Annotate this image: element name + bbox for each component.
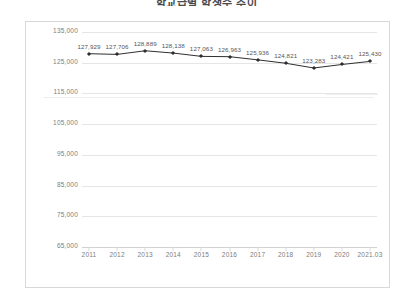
- x-axis-label: 2018: [278, 251, 293, 258]
- x-axis-label: 2020: [334, 251, 349, 258]
- data-point-label: 126,963: [218, 46, 241, 53]
- x-axis-label: 2021.03: [358, 251, 383, 258]
- y-axis-label: 65,000: [57, 242, 78, 249]
- data-point-label: 127,706: [106, 43, 129, 50]
- x-axis-label: 2017: [250, 251, 265, 258]
- data-point-label: 128,889: [134, 40, 157, 47]
- x-axis-label: 2016: [222, 251, 237, 258]
- y-axis-label: 125,000: [53, 58, 78, 65]
- data-point-label: 124,821: [274, 52, 297, 59]
- x-axis-label: 2013: [138, 251, 153, 258]
- chart-frame: 135,000125,000115,000105,00095,00085,000…: [25, 21, 390, 288]
- y-axis-label: 75,000: [57, 211, 78, 218]
- x-axis-label: 2011: [82, 251, 97, 258]
- x-axis-label: 2012: [109, 251, 124, 258]
- x-axis-label: 2019: [306, 251, 321, 258]
- plot-area: 135,000125,000115,000105,00095,00085,000…: [82, 32, 377, 247]
- y-axis-label: 95,000: [57, 150, 78, 157]
- data-point-label: 125,430: [358, 50, 381, 57]
- x-axis-label: 2014: [166, 251, 181, 258]
- y-axis-label: 105,000: [53, 119, 78, 126]
- data-point-label: 128,138: [162, 42, 185, 49]
- data-point-label: 124,421: [330, 53, 353, 60]
- series-line: [82, 32, 377, 247]
- x-axis-label: 2015: [194, 251, 209, 258]
- y-axis-label: 135,000: [53, 27, 78, 34]
- y-axis-label: 115,000: [54, 88, 78, 95]
- chart-title: 학교급별 학생수 추이: [0, 0, 413, 6]
- data-point-label: 123,283: [302, 57, 325, 64]
- data-point-label: 127,063: [190, 45, 213, 52]
- data-point-label: 127,929: [77, 43, 100, 50]
- y-axis-label: 85,000: [57, 181, 78, 188]
- x-axis: 2011201220132014201520162017201820192020…: [82, 251, 377, 265]
- data-point-label: 125,936: [246, 49, 269, 56]
